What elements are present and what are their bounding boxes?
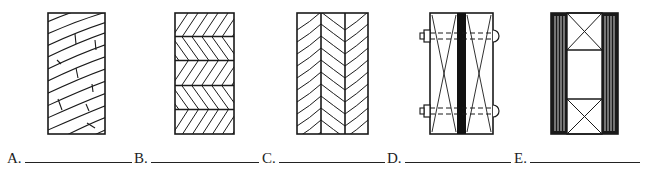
answer-a: A. xyxy=(7,145,132,167)
answer-e-letter: E. xyxy=(514,149,527,167)
answer-e-blank[interactable] xyxy=(530,148,640,163)
answer-d-blank[interactable] xyxy=(405,148,511,163)
figure-a xyxy=(30,0,120,145)
answer-d: D. xyxy=(387,145,511,167)
answer-c-blank[interactable] xyxy=(279,148,385,163)
answer-b-blank[interactable] xyxy=(151,148,259,163)
answer-d-letter: D. xyxy=(387,149,402,167)
answer-a-letter: A. xyxy=(7,149,22,167)
answer-c-letter: C. xyxy=(262,149,276,167)
figure-d xyxy=(420,13,499,134)
answer-e: E. xyxy=(514,145,640,167)
answer-b-letter: B. xyxy=(134,149,148,167)
answer-a-blank[interactable] xyxy=(25,148,132,163)
figure-e xyxy=(551,13,618,134)
answer-c: C. xyxy=(262,145,385,167)
figures-canvas xyxy=(0,0,650,145)
figure-d-center-plate xyxy=(457,13,466,134)
figure-a-outline xyxy=(48,13,105,134)
answer-row: A. B. C. D. E. xyxy=(0,145,650,167)
figure-c-outline xyxy=(297,13,368,134)
figure-b xyxy=(160,10,250,138)
answer-b: B. xyxy=(134,145,259,167)
figure-c xyxy=(297,12,368,145)
